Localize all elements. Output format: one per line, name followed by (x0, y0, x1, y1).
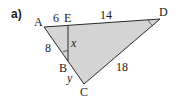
length-dc: 18 (116, 60, 128, 74)
triangle-diagram: a) A E D B C 6 14 8 x y 18 (0, 0, 179, 104)
length-eb: x (70, 36, 77, 50)
point-b-label: B (59, 61, 67, 75)
length-ab: 8 (45, 41, 51, 55)
length-ed: 14 (100, 8, 112, 22)
length-bc: y (66, 71, 73, 85)
point-e-label: E (64, 11, 71, 25)
point-c-label: C (80, 85, 88, 99)
point-d-label: D (159, 5, 168, 19)
part-label: a) (11, 7, 22, 21)
length-ae: 6 (53, 11, 59, 25)
point-a-label: A (34, 15, 43, 29)
